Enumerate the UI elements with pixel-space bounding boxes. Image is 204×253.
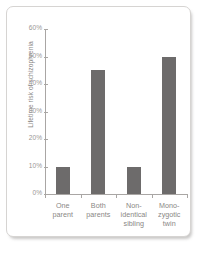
y-axis-tick-label: 10% [29, 162, 42, 169]
y-axis-tick-mark [44, 167, 48, 168]
y-axis-tick-label: 20% [29, 134, 42, 141]
x-axis-tick-mark [81, 194, 82, 198]
bar [56, 167, 70, 195]
x-axis-category-label: One parent [45, 201, 81, 219]
x-axis-category-label: Mono- zygotic twin [152, 201, 188, 229]
bar [91, 70, 105, 194]
y-axis-tick-mark [44, 29, 48, 30]
y-axis-tick: 10% [45, 167, 49, 168]
x-axis-tick-mark [152, 194, 153, 198]
x-axis-category-label: Both parents [81, 201, 117, 219]
x-axis-category-label: Non- identical sibling [116, 201, 152, 229]
y-axis-tick-mark [44, 139, 48, 140]
bar [162, 57, 176, 195]
y-axis-tick: 40% [45, 84, 49, 85]
y-axis-tick: 20% [45, 139, 49, 140]
chart-figure-frame: Lifetime risk of schizophrenia 0%10%20%3… [6, 6, 191, 237]
y-axis-tick: 60% [45, 29, 49, 30]
y-axis-tick-mark [44, 57, 48, 58]
x-axis-tick-mark [45, 194, 46, 198]
y-axis-tick-mark [44, 112, 48, 113]
y-axis-tick: 30% [45, 112, 49, 113]
bar-chart: Lifetime risk of schizophrenia 0%10%20%3… [7, 7, 190, 236]
y-axis-tick-label: 30% [29, 107, 42, 114]
y-axis-tick-label: 50% [29, 52, 42, 59]
y-axis-tick-mark [44, 84, 48, 85]
y-axis-tick-label: 0% [32, 189, 42, 196]
bar [127, 167, 141, 195]
y-axis-tick-label: 60% [29, 24, 42, 31]
x-axis-tick-mark [187, 194, 188, 198]
y-axis-tick-label: 40% [29, 79, 42, 86]
y-axis-tick: 50% [45, 57, 49, 58]
x-axis-tick-mark [116, 194, 117, 198]
plot-area: 0%10%20%30%40%50%60% One parentBoth pare… [45, 29, 187, 195]
